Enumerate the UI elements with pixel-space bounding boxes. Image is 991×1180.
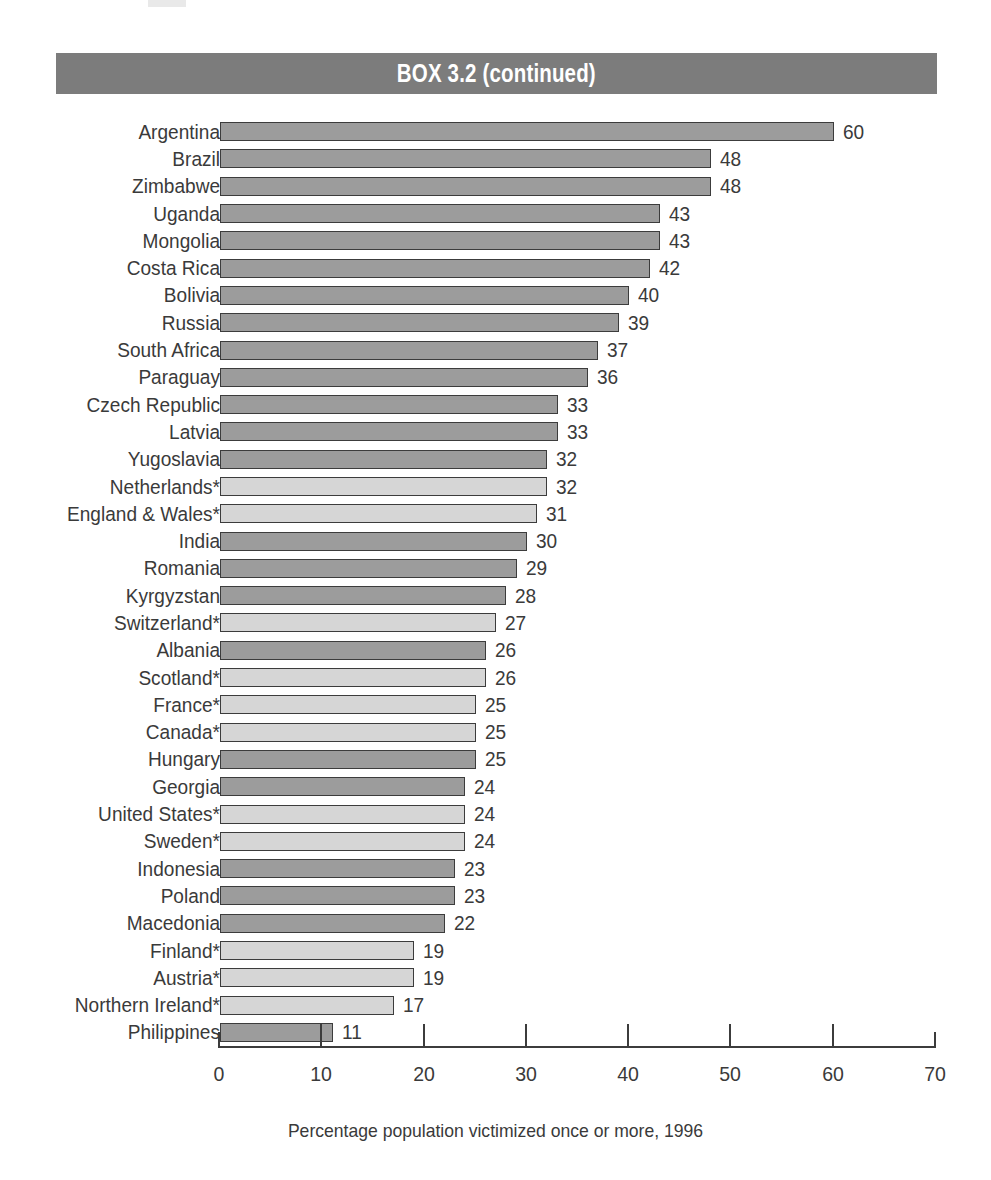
bar-category-label: Netherlands*: [0, 477, 220, 497]
bar-category-label: Kyrgyzstan: [0, 586, 220, 606]
bar: [220, 695, 476, 714]
bar-category-label: Albania: [0, 640, 220, 660]
bar-track: 48: [220, 149, 936, 168]
bar-row: Scotland*26: [0, 664, 991, 691]
bar-category-label: Indonesia: [0, 859, 220, 879]
chart-caption: Percentage population victimized once or…: [25, 1120, 966, 1142]
bar-track: 43: [220, 231, 936, 250]
bar-value-label: 11: [342, 1021, 362, 1043]
bar-value-label: 28: [515, 585, 536, 607]
x-axis-tick-label: 20: [396, 1062, 452, 1086]
bar-track: 36: [220, 368, 936, 387]
bar-track: 24: [220, 805, 936, 824]
bar-value-label: 27: [505, 612, 526, 634]
bar-category-label: Uganda: [0, 204, 220, 224]
bar-value-label: 32: [556, 448, 577, 470]
bar-track: 26: [220, 668, 936, 687]
bar: [220, 477, 547, 496]
x-axis-tick-label: 50: [703, 1062, 759, 1086]
bar-track: 33: [220, 422, 936, 441]
bar-value-label: 29: [526, 557, 547, 579]
bar-category-label: Russia: [0, 313, 220, 333]
scan-artifact: [148, 0, 186, 7]
bar-row: Russia39: [0, 309, 991, 336]
bar-category-label: Philippines: [0, 1022, 220, 1042]
bar: [220, 886, 455, 905]
bar-value-label: 37: [607, 339, 628, 361]
bar-value-label: 23: [464, 858, 485, 880]
bar-row: Indonesia23: [0, 855, 991, 882]
bar: [220, 422, 558, 441]
bar-track: 25: [220, 723, 936, 742]
bar: [220, 504, 537, 523]
bar: [220, 395, 558, 414]
bar-track: 28: [220, 586, 936, 605]
bar-value-label: 24: [474, 830, 495, 852]
x-axis-tick-label: 30: [498, 1062, 554, 1086]
bar-value-label: 33: [567, 394, 588, 416]
bar-track: 48: [220, 177, 936, 196]
bar-row: Macedonia22: [0, 910, 991, 937]
bar-value-label: 26: [495, 667, 516, 689]
bar-value-label: 33: [567, 421, 588, 443]
x-axis-line: [219, 1046, 936, 1048]
bar-row: Yugoslavia32: [0, 446, 991, 473]
bar-category-label: Costa Rica: [0, 258, 220, 278]
bar-track: 27: [220, 613, 936, 632]
x-axis-tick-label: 0: [191, 1062, 247, 1086]
bar-category-label: Paraguay: [0, 367, 220, 387]
bar-category-label: Brazil: [0, 149, 220, 169]
bar-value-label: 43: [669, 230, 690, 252]
bar-track: 19: [220, 968, 936, 987]
box-header-band: BOX 3.2 (continued): [56, 53, 937, 94]
bar-row: France*25: [0, 691, 991, 718]
bar-row: Costa Rica42: [0, 254, 991, 281]
bar-track: 24: [220, 777, 936, 796]
bar-value-label: 36: [597, 366, 618, 388]
bar-category-label: Austria*: [0, 968, 220, 988]
bar-track: 11: [220, 1023, 936, 1042]
bar: [220, 805, 465, 824]
bar: [220, 286, 629, 305]
bar-category-label: Switzerland*: [0, 613, 220, 633]
bar-track: 23: [220, 859, 936, 878]
bar-category-label: Yugoslavia: [0, 449, 220, 469]
bar-category-label: India: [0, 531, 220, 551]
bar-category-label: Scotland*: [0, 668, 220, 688]
bar: [220, 914, 445, 933]
bar-value-label: 39: [628, 312, 649, 334]
x-axis-tick-label: 40: [600, 1062, 656, 1086]
x-axis-tick-label: 10: [293, 1062, 349, 1086]
bar-value-label: 24: [474, 803, 495, 825]
bar-row: India30: [0, 527, 991, 554]
bar-track: 43: [220, 204, 936, 223]
bar-row: Poland23: [0, 882, 991, 909]
bar-row: Switzerland*27: [0, 609, 991, 636]
bar-track: 23: [220, 886, 936, 905]
bar-row: Philippines11: [0, 1019, 991, 1046]
bar-row: Sweden*24: [0, 828, 991, 855]
bar-category-label: Mongolia: [0, 231, 220, 251]
bar-value-label: 43: [669, 203, 690, 225]
bar-row: England & Wales*31: [0, 500, 991, 527]
bar-value-label: 19: [423, 967, 444, 989]
bar: [220, 586, 506, 605]
bar-category-label: France*: [0, 695, 220, 715]
bar-value-label: 48: [720, 175, 741, 197]
bar-row: South Africa37: [0, 336, 991, 363]
bar-rows: Argentina60Brazil48Zimbabwe48Uganda43Mon…: [0, 118, 991, 1046]
bar-category-label: Romania: [0, 558, 220, 578]
bar: [220, 968, 414, 987]
bar-value-label: 25: [485, 748, 506, 770]
bar: [220, 532, 527, 551]
bar-category-label: Zimbabwe: [0, 176, 220, 196]
bar-row: Latvia33: [0, 418, 991, 445]
bar-row: Hungary25: [0, 746, 991, 773]
bar-category-label: Argentina: [0, 122, 220, 142]
bar-value-label: 31: [546, 503, 567, 525]
bar: [220, 832, 465, 851]
bar-row: Netherlands*32: [0, 473, 991, 500]
bar-value-label: 19: [423, 940, 444, 962]
bar-track: 32: [220, 477, 936, 496]
bar-track: 40: [220, 286, 936, 305]
